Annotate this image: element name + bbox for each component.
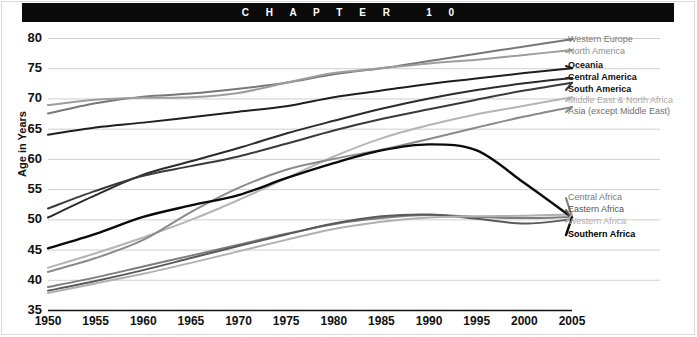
- x-tick-label-2000: 2000: [501, 314, 547, 328]
- x-tick-label-1955: 1955: [73, 314, 119, 328]
- x-tick-label-1965: 1965: [168, 314, 214, 328]
- legend-label-oceania: Oceania: [568, 60, 603, 70]
- legend-label-western-africa: Western Africa: [568, 216, 626, 226]
- legend-label-southern-africa: Southern Africa: [568, 229, 635, 239]
- x-tick-label-1980: 1980: [311, 314, 357, 328]
- legend-label-north-america: North America: [568, 46, 625, 56]
- series-line-western-africa: [48, 215, 572, 294]
- legend-label-central-africa: Central Africa: [568, 192, 622, 202]
- x-tick-label-2005: 2005: [549, 314, 595, 328]
- legend-label-asia-except-middle-east: Asia (except Middle East): [568, 106, 670, 116]
- x-tick-label-1960: 1960: [120, 314, 166, 328]
- y-tick-label-70: 70: [8, 90, 42, 105]
- x-tick-label-1950: 1950: [25, 314, 71, 328]
- x-tick-label-1970: 1970: [216, 314, 262, 328]
- series-line-eastern-africa: [48, 214, 572, 290]
- series-line-southern-africa: [48, 144, 572, 248]
- y-tick-label-40: 40: [8, 272, 42, 287]
- y-tick-label-80: 80: [8, 30, 42, 45]
- y-tick-label-75: 75: [8, 60, 42, 75]
- legend-label-western-europe: Western Europe: [568, 34, 633, 44]
- legend-label-south-america: South America: [568, 84, 631, 94]
- legend-label-central-america: Central America: [568, 72, 637, 82]
- figure-root: C H A P T E R 1 0 Age in Years 807570656…: [0, 0, 697, 337]
- x-tick-label-1985: 1985: [358, 314, 404, 328]
- y-tick-label-45: 45: [8, 242, 42, 257]
- legend-label-eastern-africa: Eastern Africa: [568, 204, 624, 214]
- x-tick-label-1975: 1975: [263, 314, 309, 328]
- x-tick-label-1995: 1995: [454, 314, 500, 328]
- y-tick-label-65: 65: [8, 121, 42, 136]
- y-tick-label-50: 50: [8, 211, 42, 226]
- legend-label-middle-east-north-africa: Middle East & North Africa: [568, 95, 673, 105]
- y-tick-label-60: 60: [8, 151, 42, 166]
- x-tick-label-1990: 1990: [406, 314, 452, 328]
- series-lines-group: [48, 39, 572, 293]
- y-tick-label-55: 55: [8, 181, 42, 196]
